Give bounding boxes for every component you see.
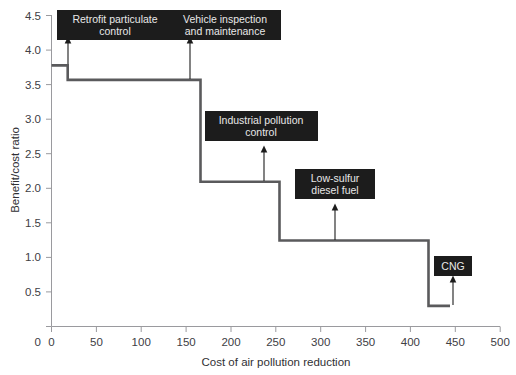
y-tick-label: 0.5 — [25, 286, 41, 298]
callout-low-sulfur-diesel-fuel[interactable]: Low-sulfur diesel fuel — [295, 169, 375, 240]
callout-line-2: and maintenance — [185, 25, 266, 37]
y-tick-label: 1.0 — [25, 251, 41, 263]
y-axis-title: Benefit/cost ratio — [9, 127, 21, 213]
x-tick-label: 450 — [446, 336, 465, 348]
y-tick-label: 1.5 — [25, 217, 41, 229]
callout-line-1: Vehicle inspection — [183, 13, 267, 25]
arrow-head-icon — [450, 276, 457, 283]
x-tick-label: 350 — [356, 336, 375, 348]
callout-line-1: Industrial pollution — [219, 114, 304, 126]
x-tick-label: 500 — [491, 336, 510, 348]
step-chart: 4.5 4.0 3.5 3.0 2.5 2.0 1.5 1.0 0.5 0 — [0, 0, 516, 375]
x-axis-title: Cost of air pollution reduction — [202, 356, 351, 368]
x-tick-label: 300 — [311, 336, 330, 348]
x-axis-tick-labels: 0 50 100 150 200 250 300 350 400 450 500 — [48, 336, 509, 348]
x-tick-label: 100 — [132, 336, 151, 348]
arrow-head-icon — [261, 146, 268, 153]
x-tick-label: 400 — [401, 336, 420, 348]
callout-line-2: diesel fuel — [311, 184, 358, 196]
y-axis-ticks — [46, 16, 52, 327]
callout-line-2: control — [245, 126, 277, 138]
x-tick-label: 250 — [266, 336, 285, 348]
chart-container: 4.5 4.0 3.5 3.0 2.5 2.0 1.5 1.0 0.5 0 — [0, 0, 516, 375]
callout-line-1: CNG — [441, 260, 464, 272]
y-tick-label: 4.0 — [25, 44, 41, 56]
x-tick-label: 0 — [48, 336, 54, 348]
y-tick-label: 0 — [35, 336, 41, 348]
callout-line-2: control — [99, 25, 131, 37]
y-tick-label: 3.5 — [25, 79, 41, 91]
y-axis-tick-labels: 4.5 4.0 3.5 3.0 2.5 2.0 1.5 1.0 0.5 0 — [25, 10, 41, 348]
callout-line-1: Retrofit particulate — [72, 13, 157, 25]
y-tick-label: 2.5 — [25, 148, 41, 160]
x-tick-label: 150 — [177, 336, 196, 348]
y-tick-label: 4.5 — [25, 10, 41, 22]
callout-retrofit-particulate-control[interactable]: Retrofit particulate control — [57, 10, 173, 64]
arrow-head-icon — [332, 204, 339, 211]
x-tick-label: 200 — [221, 336, 240, 348]
y-tick-label: 3.0 — [25, 113, 41, 125]
callout-cng[interactable]: CNG — [434, 256, 472, 305]
step-curve — [52, 65, 451, 306]
y-tick-label: 2.0 — [25, 182, 41, 194]
callout-line-1: Low-sulfur — [311, 172, 360, 184]
x-axis-ticks — [52, 327, 501, 333]
x-tick-label: 50 — [90, 336, 103, 348]
callout-vehicle-inspection-and-maintenance[interactable]: Vehicle inspection and maintenance — [169, 10, 281, 79]
